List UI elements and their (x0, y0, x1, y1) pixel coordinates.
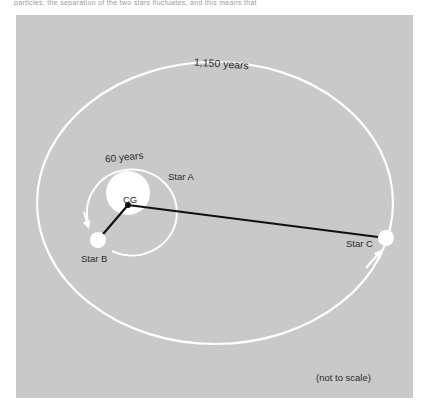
star-b (90, 232, 106, 248)
star-c (378, 230, 394, 246)
star-a-label: Star A (168, 171, 195, 182)
cg-label: CG (123, 194, 137, 205)
star-b-label: Star B (81, 253, 107, 264)
page: particles, the separation of the two sta… (0, 0, 421, 406)
outer-orbit-label: 1,150 years (194, 56, 250, 72)
orbit-diagram: 1,150 years 60 years Star A CG Star B St… (0, 0, 421, 406)
outer-orbit (37, 62, 393, 344)
cg-to-star-c-line (128, 205, 386, 238)
inner-orbit-label: 60 years (105, 150, 144, 165)
scale-note: (not to scale) (316, 372, 371, 383)
star-a (106, 171, 150, 215)
star-c-label: Star C (346, 238, 373, 249)
